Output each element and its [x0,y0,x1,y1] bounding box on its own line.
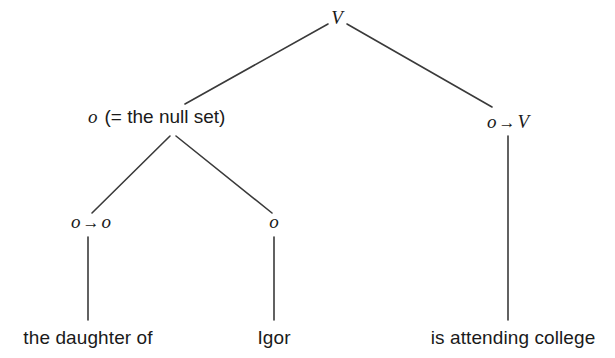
edge-null-set-to-lower-mid [176,136,272,213]
node-lower-left: o→o [71,212,111,231]
node-null-set-category: o [88,106,98,127]
arrow-right-icon: → [496,113,517,132]
tree-edges-layer [0,0,615,358]
terminal-igor: Igor [257,328,290,347]
node-right-branch-left: o [487,111,497,132]
node-lower-left-right: o [102,211,112,232]
node-lower-left-left: o [71,211,81,232]
node-right-branch: o→V [487,112,529,131]
node-lower-mid: o [269,212,279,231]
arrow-right-icon: → [81,213,102,232]
tree-diagram: V o(= the null set) o→V o→o o the daught… [0,0,615,358]
terminal-the-daughter-of: the daughter of [23,328,152,347]
node-lower-mid-label: o [269,211,279,232]
node-null-set: o(= the null set) [88,107,225,126]
edge-root-to-right-branch [347,24,492,107]
node-right-branch-right: V [517,111,529,132]
node-null-set-gloss: (= the null set) [98,106,226,127]
edge-null-set-to-lower-left [92,136,170,213]
node-root: V [331,8,343,27]
edge-root-to-null-set [185,24,328,104]
terminal-is-attending-college: is attending college [431,328,596,347]
node-root-label: V [331,7,343,28]
